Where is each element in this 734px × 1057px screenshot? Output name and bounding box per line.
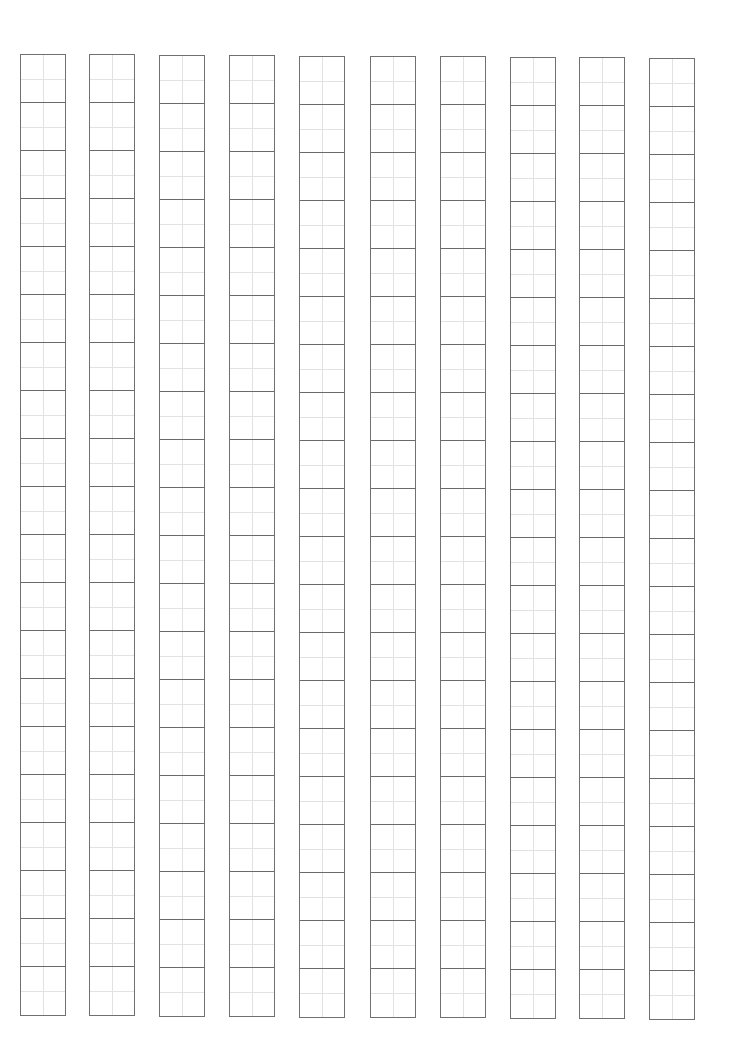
grid-cell — [21, 103, 65, 151]
horizontal-guide-line — [441, 417, 485, 418]
horizontal-guide-line — [441, 753, 485, 754]
grid-cell — [230, 920, 274, 968]
grid-cell — [230, 680, 274, 728]
grid-cell — [90, 583, 134, 631]
horizontal-guide-line — [371, 321, 415, 322]
grid-cell — [650, 347, 694, 395]
grid-cell — [511, 490, 555, 538]
horizontal-guide-line — [21, 943, 65, 944]
grid-cell — [90, 919, 134, 967]
horizontal-guide-line — [90, 415, 134, 416]
grid-column — [440, 56, 486, 1018]
grid-cell — [230, 728, 274, 776]
horizontal-guide-line — [90, 703, 134, 704]
grid-cell — [371, 873, 415, 921]
grid-cell — [650, 587, 694, 635]
grid-cell — [511, 394, 555, 442]
horizontal-guide-line — [580, 946, 624, 947]
grid-cell — [300, 633, 344, 681]
horizontal-guide-line — [511, 802, 555, 803]
horizontal-guide-line — [511, 370, 555, 371]
horizontal-guide-line — [21, 79, 65, 80]
grid-cell — [580, 106, 624, 154]
grid-cell — [230, 440, 274, 488]
grid-cell — [511, 682, 555, 730]
horizontal-guide-line — [650, 707, 694, 708]
grid-cell — [90, 439, 134, 487]
horizontal-guide-line — [230, 224, 274, 225]
horizontal-guide-line — [441, 561, 485, 562]
grid-cell — [371, 921, 415, 969]
grid-cell — [160, 344, 204, 392]
grid-cell — [300, 777, 344, 825]
horizontal-guide-line — [21, 607, 65, 608]
horizontal-guide-line — [21, 127, 65, 128]
grid-cell — [300, 681, 344, 729]
grid-cell — [511, 346, 555, 394]
grid-cell — [511, 970, 555, 1018]
horizontal-guide-line — [650, 803, 694, 804]
grid-cell — [441, 969, 485, 1017]
horizontal-guide-line — [230, 512, 274, 513]
grid-cell — [230, 536, 274, 584]
horizontal-guide-line — [371, 561, 415, 562]
horizontal-guide-line — [580, 82, 624, 83]
grid-cell — [300, 489, 344, 537]
horizontal-guide-line — [511, 946, 555, 947]
horizontal-guide-line — [580, 178, 624, 179]
grid-cell — [580, 346, 624, 394]
grid-cell — [21, 55, 65, 103]
horizontal-guide-line — [300, 81, 344, 82]
grid-cell — [21, 823, 65, 871]
horizontal-guide-line — [300, 897, 344, 898]
grid-cell — [371, 681, 415, 729]
grid-cell — [511, 730, 555, 778]
horizontal-guide-line — [441, 369, 485, 370]
horizontal-guide-line — [371, 417, 415, 418]
horizontal-guide-line — [580, 274, 624, 275]
horizontal-guide-line — [650, 227, 694, 228]
horizontal-guide-line — [441, 177, 485, 178]
grid-cell — [230, 296, 274, 344]
grid-column — [510, 57, 556, 1019]
horizontal-guide-line — [300, 273, 344, 274]
grid-cell — [511, 586, 555, 634]
horizontal-guide-line — [371, 129, 415, 130]
grid-cell — [580, 250, 624, 298]
horizontal-guide-line — [511, 562, 555, 563]
horizontal-guide-line — [650, 83, 694, 84]
horizontal-guide-line — [580, 226, 624, 227]
horizontal-guide-line — [441, 897, 485, 898]
grid-cell — [160, 680, 204, 728]
grid-cell — [371, 729, 415, 777]
grid-cell — [230, 200, 274, 248]
grid-cell — [160, 488, 204, 536]
grid-cell — [90, 295, 134, 343]
horizontal-guide-line — [300, 465, 344, 466]
horizontal-guide-line — [580, 802, 624, 803]
horizontal-guide-line — [230, 128, 274, 129]
horizontal-guide-line — [90, 319, 134, 320]
grid-column — [579, 57, 625, 1019]
grid-column — [370, 56, 416, 1018]
horizontal-guide-line — [160, 416, 204, 417]
horizontal-guide-line — [160, 368, 204, 369]
horizontal-guide-line — [230, 80, 274, 81]
grid-cell — [511, 634, 555, 682]
grid-cell — [160, 632, 204, 680]
horizontal-guide-line — [230, 608, 274, 609]
grid-cell — [21, 871, 65, 919]
horizontal-guide-line — [371, 657, 415, 658]
grid-cell — [160, 200, 204, 248]
horizontal-guide-line — [441, 129, 485, 130]
grid-cell — [580, 634, 624, 682]
horizontal-guide-line — [300, 945, 344, 946]
horizontal-guide-line — [160, 608, 204, 609]
grid-cell — [650, 635, 694, 683]
grid-cell — [511, 154, 555, 202]
horizontal-guide-line — [371, 897, 415, 898]
grid-cell — [230, 776, 274, 824]
grid-column — [299, 56, 345, 1018]
horizontal-guide-line — [21, 511, 65, 512]
grid-cell — [371, 585, 415, 633]
